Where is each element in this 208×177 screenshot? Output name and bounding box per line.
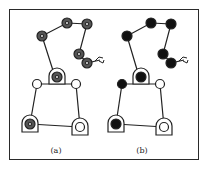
left-filled-joint-b [118,80,127,89]
panel-a-label: (a) [50,146,61,155]
mechanism-diagram: (a) (b) [0,0,208,177]
right-open-joint-a [72,80,81,89]
panel-b-label: (b) [136,146,147,155]
right-open-joint-b [156,80,165,89]
arm-joints-b [122,18,176,82]
panel-b [108,18,188,135]
left-open-joint-a [33,80,42,89]
panel-a [22,18,104,135]
